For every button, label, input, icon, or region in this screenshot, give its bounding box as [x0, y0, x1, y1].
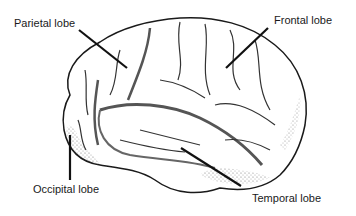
label-temporal-lobe: Temporal lobe [252, 193, 321, 204]
brain-outline [63, 18, 306, 193]
brain-diagram: Parietal lobe Frontal lobe Occipital lob… [0, 0, 356, 216]
label-parietal-lobe: Parietal lobe [14, 18, 75, 29]
label-occipital-lobe: Occipital lobe [33, 184, 99, 195]
label-frontal-lobe: Frontal lobe [274, 15, 332, 26]
